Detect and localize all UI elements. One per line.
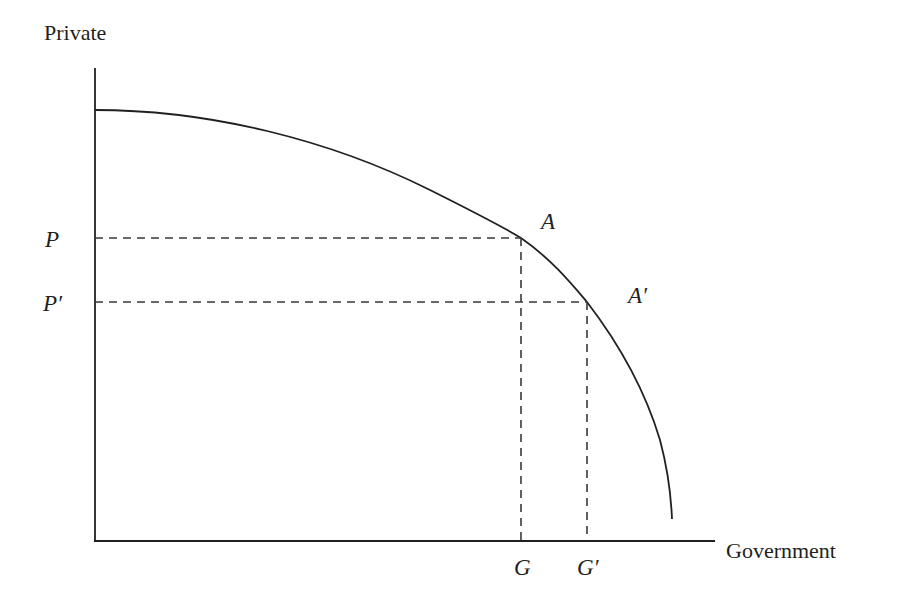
x-axis-title: Government xyxy=(726,538,836,563)
ppf-diagram: Private Government P P′ G G′ A A′ xyxy=(0,0,903,601)
ppf-curve xyxy=(95,110,672,519)
point-a-label: A xyxy=(539,209,556,234)
p-label: P xyxy=(44,227,59,252)
g-label: G xyxy=(514,555,531,580)
y-axis-title: Private xyxy=(44,20,106,45)
g-prime-label: G′ xyxy=(577,555,600,580)
p-prime-label: P′ xyxy=(42,291,63,316)
point-a-prime-label: A′ xyxy=(626,283,648,308)
